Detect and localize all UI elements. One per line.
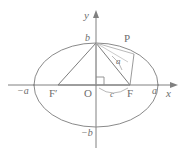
y-axis-arrowhead: [93, 10, 99, 18]
ellipse-geometry-figure: y x O b −b −a a F′ F P c a: [0, 0, 190, 159]
construction-segments: [58, 43, 134, 85]
left-vertex-dot: [33, 84, 35, 86]
x-axis-arrowhead: [170, 82, 178, 88]
right-vertex-label: a: [152, 86, 157, 96]
left-vertex-label: −a: [17, 86, 29, 96]
segment-b-helper: [96, 43, 128, 62]
point-p-label: P: [124, 33, 130, 44]
bottom-vertex-label: −b: [81, 128, 93, 138]
left-focus-label: F′: [49, 88, 58, 99]
segment-p-to-right-focus: [130, 54, 134, 85]
top-vertex-label: b: [85, 33, 90, 43]
focal-distance-label: c: [110, 90, 114, 99]
x-axis-label: x: [166, 88, 171, 99]
segment-b-to-right-focus: [96, 43, 130, 85]
right-angle-marker: [96, 77, 104, 85]
right-focus-label: F: [127, 88, 133, 99]
origin-label: O: [84, 88, 92, 99]
right-vertex-dot: [157, 84, 159, 86]
y-axis-label: y: [84, 10, 89, 21]
semi-major-segment-label: a: [116, 57, 121, 66]
figure-canvas: [0, 0, 190, 159]
